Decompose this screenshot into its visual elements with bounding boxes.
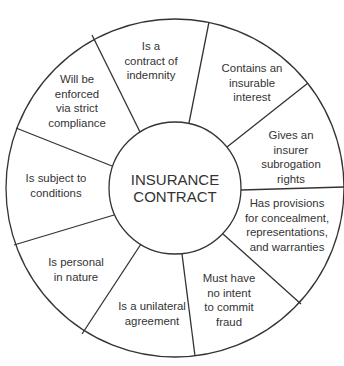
segment-indemnity: Is a contract of indemnity: [124, 39, 177, 83]
divider-line: [16, 128, 112, 166]
segment-text: Will be: [48, 72, 106, 87]
segment-text: via strict: [48, 101, 106, 116]
segment-text: conditions: [26, 185, 87, 200]
segment-text: and warranties: [245, 240, 329, 255]
segment-conditions: Is subject to conditions: [26, 171, 87, 200]
segment-personal: Is personal in nature: [48, 255, 104, 284]
center-title-line: CONTRACT: [131, 188, 219, 205]
segment-text: representations,: [245, 225, 329, 240]
segment-text: Gives an: [261, 128, 321, 143]
segment-text: Is a: [124, 39, 177, 54]
segment-text: Is a unilateral: [118, 299, 186, 314]
segment-provisions: Has provisions for concealment, represen…: [245, 196, 329, 254]
divider-line: [14, 215, 114, 245]
segment-subrogation: Gives an insurer subrogation rights: [261, 128, 321, 186]
segment-text: insurable: [222, 76, 283, 91]
segment-text: Is personal: [48, 255, 104, 270]
segment-text: to commit: [203, 300, 256, 315]
divider-line: [241, 187, 344, 190]
segment-text: insurer: [261, 143, 321, 158]
segment-text: Is subject to: [26, 171, 87, 186]
segment-text: agreement: [118, 313, 186, 328]
segment-text: Contains an: [222, 61, 283, 76]
segment-text: fraud: [203, 315, 256, 330]
insurance-contract-diagram: INSURANCE CONTRACT Is a contract of inde…: [0, 0, 344, 366]
segment-text: enforced: [48, 87, 106, 102]
segment-text: subrogation: [261, 157, 321, 172]
segment-unilateral: Is a unilateral agreement: [118, 299, 186, 328]
segment-text: in nature: [48, 269, 104, 284]
segment-text: compliance: [48, 116, 106, 131]
segment-text: no intent: [203, 286, 256, 301]
segment-text: Must have: [203, 271, 256, 286]
segment-insurable-interest: Contains an insurable interest: [222, 61, 283, 105]
segment-text: indemnity: [124, 68, 177, 83]
segment-text: contract of: [124, 54, 177, 69]
segment-text: Has provisions: [245, 196, 329, 211]
divider-line: [189, 22, 209, 123]
center-title: INSURANCE CONTRACT: [131, 171, 219, 205]
center-title-line: INSURANCE: [131, 171, 219, 188]
segment-strict-compliance: Will be enforced via strict compliance: [48, 72, 106, 130]
segment-text: for concealment,: [245, 211, 329, 226]
segment-text: interest: [222, 90, 283, 105]
segment-no-fraud: Must have no intent to commit fraud: [203, 271, 256, 329]
segment-text: rights: [261, 172, 321, 187]
